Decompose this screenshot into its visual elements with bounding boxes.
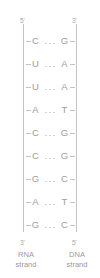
hydrogen-bond: ... xyxy=(41,36,60,46)
end-label-bottom-right: 5' xyxy=(72,240,77,247)
rna-dna-hybrid-diagram: 5' 3' 3' 5' C ... G U ... A U ... A A ..… xyxy=(0,0,100,278)
base-pair-row: G ... C xyxy=(23,218,77,232)
strand-name-dna: DNA xyxy=(55,250,99,260)
bond-stub-right xyxy=(70,87,75,88)
strand-kind-dna: strand xyxy=(55,260,99,270)
base-dna: A xyxy=(60,59,70,69)
base-rna: A xyxy=(31,105,41,115)
base-pair-row: C ... G xyxy=(23,149,77,163)
base-rna: U xyxy=(31,59,41,69)
base-pair-row: A ... T xyxy=(23,195,77,209)
bond-stub-right xyxy=(70,202,75,203)
base-dna: T xyxy=(60,197,70,207)
hydrogen-bond: ... xyxy=(41,151,60,161)
base-pair-row: C ... G xyxy=(23,126,77,140)
base-pair-row: C ... G xyxy=(23,34,77,48)
base-dna: G xyxy=(60,128,70,138)
base-rna: A xyxy=(31,197,41,207)
bond-stub-right xyxy=(70,225,75,226)
hydrogen-bond: ... xyxy=(41,128,60,138)
bond-stub-right xyxy=(70,133,75,134)
base-pair-row: U ... A xyxy=(23,57,77,71)
strand-caption-dna: DNA strand xyxy=(55,250,99,270)
base-rna: C xyxy=(31,151,41,161)
hydrogen-bond: ... xyxy=(41,220,60,230)
base-pair-row: U ... A xyxy=(23,80,77,94)
hydrogen-bond: ... xyxy=(41,105,60,115)
bond-stub-right xyxy=(70,110,75,111)
hydrogen-bond: ... xyxy=(41,197,60,207)
base-rna: C xyxy=(31,128,41,138)
base-rna: U xyxy=(31,82,41,92)
bond-stub-right xyxy=(70,179,75,180)
bond-stub-right xyxy=(70,64,75,65)
base-pair-row: G ... C xyxy=(23,172,77,186)
bond-stub-right xyxy=(70,156,75,157)
base-dna: G xyxy=(60,151,70,161)
strand-name-rna: RNA xyxy=(4,250,48,260)
base-dna: G xyxy=(60,36,70,46)
hydrogen-bond: ... xyxy=(41,82,60,92)
base-dna: T xyxy=(60,105,70,115)
hydrogen-bond: ... xyxy=(41,59,60,69)
base-rna: G xyxy=(31,220,41,230)
strand-kind-rna: strand xyxy=(4,260,48,270)
base-dna: C xyxy=(60,174,70,184)
end-label-bottom-left: 3' xyxy=(20,240,25,247)
base-rna: C xyxy=(31,36,41,46)
base-pair-row: A ... T xyxy=(23,103,77,117)
bond-stub-right xyxy=(70,41,75,42)
base-rna: G xyxy=(31,174,41,184)
base-dna: C xyxy=(60,220,70,230)
base-dna: A xyxy=(60,82,70,92)
hydrogen-bond: ... xyxy=(41,174,60,184)
strand-caption-rna: RNA strand xyxy=(4,250,48,270)
